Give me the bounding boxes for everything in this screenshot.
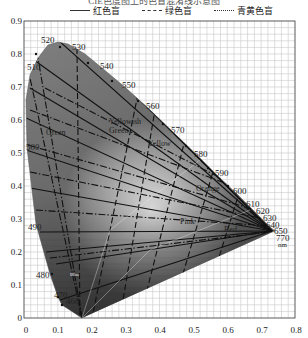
wl-490: 490 <box>28 222 42 232</box>
x-tick: 0.6 <box>222 325 234 335</box>
x-tick: 0.2 <box>86 325 97 335</box>
wl-590: 590 <box>215 168 229 178</box>
y-tick: 0.5 <box>11 148 23 158</box>
wl-500: 500 <box>26 142 40 152</box>
wl-540: 540 <box>100 61 114 71</box>
region-label-orange: Orange <box>196 184 220 193</box>
x-tick: 0.4 <box>154 325 166 335</box>
y-tick: 0.4 <box>11 181 23 191</box>
region-label-green2: Green <box>109 126 129 135</box>
y-tick: 0.6 <box>11 115 23 125</box>
region-label-yellow: Yellow <box>148 139 171 148</box>
x-tick: 0.1 <box>52 325 63 335</box>
y-tick: 0.1 <box>11 280 22 290</box>
wl-520: 520 <box>41 35 55 45</box>
y-tick: 0.7 <box>11 82 23 92</box>
x-tick: 0.5 <box>188 325 200 335</box>
region-label-pink: Pink <box>180 217 195 226</box>
x-tick: 0 <box>24 325 29 335</box>
wl-470: 470 <box>54 290 68 300</box>
region-label-yellowish: Yellowish <box>109 117 141 126</box>
wl-550: 550 <box>122 80 136 90</box>
wl-460: 460 <box>66 296 80 306</box>
wl-570: 570 <box>171 125 185 135</box>
y-tick: 0 <box>18 313 23 323</box>
wl-unit: nm <box>278 241 288 249</box>
region-label-green: Green <box>46 128 66 137</box>
wl-530: 530 <box>72 42 86 52</box>
region-label-blue: Blue <box>70 272 80 277</box>
chromaticity-diagram: Green Yellowish Green Yellow Orange Pink… <box>0 0 308 338</box>
wl-580: 580 <box>194 149 208 159</box>
y-tick: 0.8 <box>11 49 23 59</box>
wl-560: 560 <box>146 101 160 111</box>
wl-600: 600 <box>233 186 247 196</box>
y-tick: 0.3 <box>11 214 23 224</box>
wl-480: 480 <box>36 270 50 280</box>
y-tick: 0.2 <box>11 247 22 257</box>
x-tick: 0.7 <box>256 325 268 335</box>
wl-510: 510 <box>27 62 41 72</box>
y-tick: 0.9 <box>11 16 23 26</box>
region-label-red: Red <box>224 225 237 234</box>
x-tick: 0.8 <box>290 325 302 335</box>
x-tick: 0.3 <box>120 325 132 335</box>
